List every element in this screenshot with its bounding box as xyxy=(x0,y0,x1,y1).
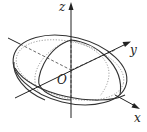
x-axis xyxy=(8,38,20,44)
ellipsoid-diagram: z y x O xyxy=(0,0,147,132)
z-axis-label: z xyxy=(58,0,66,14)
axes xyxy=(8,5,137,118)
origin-label: O xyxy=(57,73,67,87)
z-arrow-icon xyxy=(69,2,74,10)
hidden-ellipse-curves xyxy=(10,30,130,111)
ellipsoid-outline xyxy=(6,24,135,116)
x-axis-label: x xyxy=(134,111,141,125)
hidden-axis-segments xyxy=(20,40,115,98)
x-arrow-icon xyxy=(132,103,141,109)
y-axis-label: y xyxy=(129,43,137,57)
